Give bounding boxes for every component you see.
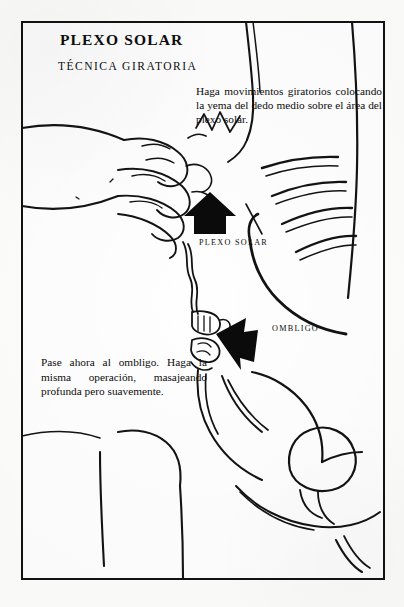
illustration-page: PLEXO SOLAR TÉCNICA GIRATORIA Haga movim…	[0, 0, 404, 607]
arrow-ombligo-icon	[216, 318, 258, 370]
instruction-text-bottom: Pase ahora al ombligo. Haga la misma ope…	[41, 355, 207, 399]
anatomy-label-plexo-solar: PLEXO SOLAR	[199, 238, 268, 247]
instruction-text-top: Haga movimientos giratorios colocando la…	[196, 84, 382, 127]
anatomy-label-ombligo: OMBLIGO	[272, 324, 319, 333]
page-title: PLEXO SOLAR	[60, 31, 183, 49]
page-subtitle: TÉCNICA GIRATORIA	[58, 60, 197, 72]
arrow-plexo-solar-icon	[184, 192, 236, 234]
